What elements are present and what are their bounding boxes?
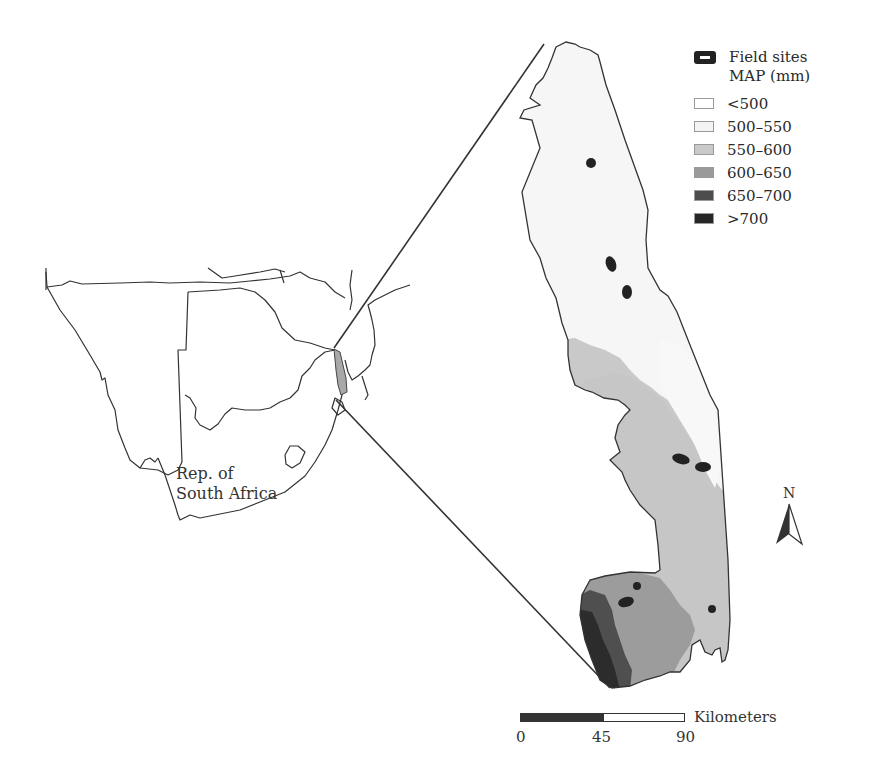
legend-title: MAP (mm) bbox=[729, 67, 810, 86]
north-arrow-icon bbox=[773, 500, 805, 546]
legend: Field sites MAP (mm) <500 500–550 550–60… bbox=[694, 48, 874, 230]
scale-segment-dark bbox=[520, 713, 603, 722]
country-label: Rep. of South Africa bbox=[176, 464, 277, 504]
legend-item: 600–650 bbox=[694, 161, 874, 184]
legend-swatch bbox=[694, 98, 714, 109]
legend-label: 600–650 bbox=[727, 164, 792, 182]
north-arrow: N bbox=[773, 486, 805, 550]
country-label-line1: Rep. of bbox=[176, 464, 277, 484]
scale-bar: Kilometers 0 45 90 bbox=[520, 708, 777, 746]
legend-label: <500 bbox=[727, 95, 768, 113]
field-site bbox=[633, 582, 641, 590]
legend-label: 650–700 bbox=[727, 187, 792, 205]
legend-swatch bbox=[694, 121, 714, 132]
scale-unit: Kilometers bbox=[694, 708, 777, 726]
legend-item: <500 bbox=[694, 92, 874, 115]
field-site bbox=[695, 462, 711, 472]
legend-sites-label: Field sites bbox=[729, 48, 810, 67]
connector-line-top bbox=[334, 44, 544, 348]
scale-tick-90: 90 bbox=[676, 728, 695, 746]
legend-label: 550–600 bbox=[727, 141, 792, 159]
legend-swatch bbox=[694, 144, 714, 155]
legend-item: 650–700 bbox=[694, 184, 874, 207]
scale-tick-45: 45 bbox=[592, 728, 611, 746]
north-label: N bbox=[773, 486, 805, 500]
legend-label: 500–550 bbox=[727, 118, 792, 136]
legend-item: 550–600 bbox=[694, 138, 874, 161]
country-label-line2: South Africa bbox=[176, 484, 277, 504]
connector-line-bottom bbox=[336, 400, 610, 688]
field-site bbox=[586, 158, 596, 168]
field-site bbox=[622, 285, 632, 299]
legend-item: 500–550 bbox=[694, 115, 874, 138]
legend-swatch bbox=[694, 213, 714, 224]
legend-swatch bbox=[694, 167, 714, 178]
legend-swatch bbox=[694, 190, 714, 201]
field-site-icon bbox=[694, 51, 716, 64]
legend-item: >700 bbox=[694, 207, 874, 230]
study-area-inset bbox=[334, 349, 347, 395]
scale-tick-0: 0 bbox=[516, 728, 526, 746]
scale-segment-light bbox=[603, 713, 685, 722]
field-site bbox=[708, 605, 716, 613]
legend-label: >700 bbox=[727, 210, 768, 228]
